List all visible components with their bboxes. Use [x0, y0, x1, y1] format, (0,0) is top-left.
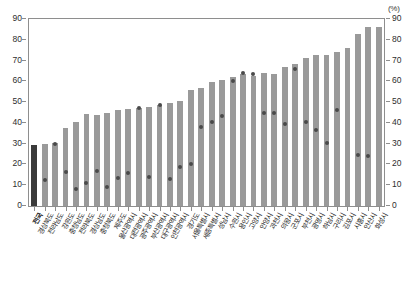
bar-slot [240, 19, 246, 206]
bar-slot [188, 19, 194, 206]
bar-slot [104, 19, 110, 206]
x-tick-mark [233, 207, 234, 211]
x-tick-mark [97, 207, 98, 211]
data-point-marker [178, 165, 182, 169]
bar [73, 122, 79, 206]
x-tick-mark [149, 207, 150, 211]
x-tick-mark [76, 207, 77, 211]
data-point-marker [314, 128, 318, 132]
bar [303, 58, 309, 206]
unit-label-right: (%) [388, 4, 400, 13]
data-point-marker [293, 67, 297, 71]
y-axis-left: 0102030405060708090 [0, 18, 26, 207]
x-tick-mark [222, 207, 223, 211]
bar [282, 67, 288, 206]
x-tick-mark [295, 207, 296, 211]
data-point-marker [304, 120, 308, 124]
x-tick-mark [191, 207, 192, 211]
bar [157, 105, 163, 206]
bar-slot [376, 19, 382, 206]
y-tick-mark-left [22, 205, 26, 206]
y-tick-mark-right [386, 18, 390, 19]
data-point-marker [84, 181, 88, 185]
x-tick-mark [170, 207, 171, 211]
x-tick-mark [264, 207, 265, 211]
bar [251, 76, 257, 206]
bar [177, 101, 183, 206]
y-tick-mark-right [386, 143, 390, 144]
x-tick-mark [285, 207, 286, 211]
x-tick-mark [180, 207, 181, 211]
bar-slot [115, 19, 121, 206]
bar-slot [324, 19, 330, 206]
data-point-marker [126, 171, 130, 175]
bar-slot [157, 19, 163, 206]
y-tick-mark-left [22, 122, 26, 123]
y-tick-mark-right [386, 184, 390, 185]
bar-slot [125, 19, 131, 206]
bar-slot [345, 19, 351, 206]
y-tick-label-right: 40 [392, 118, 401, 126]
bar-slot [230, 19, 236, 206]
y-tick-label-left: 40 [13, 118, 22, 126]
bar [355, 34, 361, 206]
data-point-marker [43, 178, 47, 182]
y-tick-label-right: 60 [392, 76, 401, 84]
bars-layer [29, 19, 384, 206]
y-axis-right: 0102030405060708090 [386, 18, 412, 207]
x-tick-mark [347, 207, 348, 211]
bar-slot [313, 19, 319, 206]
y-tick-label-right: 0 [392, 201, 397, 209]
bar-slot [292, 19, 298, 206]
bar [104, 113, 110, 206]
bar [52, 143, 58, 206]
x-tick-mark [253, 207, 254, 211]
x-tick-mark [55, 207, 56, 211]
y-tick-mark-left [22, 18, 26, 19]
data-point-marker [251, 72, 255, 76]
data-point-marker [64, 170, 68, 174]
bar-chart: (%) 0102030405060708090 0102030405060708… [0, 0, 418, 293]
y-tick-label-left: 0 [17, 201, 22, 209]
data-point-marker [231, 79, 235, 83]
y-tick-label-left: 90 [13, 14, 22, 22]
x-tick-mark [243, 207, 244, 211]
bar-slot [355, 19, 361, 206]
x-tick-mark [45, 207, 46, 211]
bar [324, 55, 330, 206]
data-point-marker [241, 71, 245, 75]
bar-slot [42, 19, 48, 206]
x-tick-mark [368, 207, 369, 211]
y-tick-label-left: 20 [13, 159, 22, 167]
x-axis-labels: 전국경상북도전라남도강원도충청남도전라북도경상남도충청북도제주도울산광역시대전광… [29, 212, 384, 293]
y-tick-mark-right [386, 101, 390, 102]
bar [271, 74, 277, 206]
bar [345, 48, 351, 206]
data-point-marker [366, 154, 370, 158]
y-tick-mark-left [22, 163, 26, 164]
y-tick-label-right: 70 [392, 56, 401, 64]
x-tick-mark [118, 207, 119, 211]
bar-slot [63, 19, 69, 206]
bar [240, 74, 246, 206]
bar-slot [271, 19, 277, 206]
bar [94, 115, 100, 206]
data-point-marker [272, 111, 276, 115]
y-tick-mark-right [386, 122, 390, 123]
bar-slot [209, 19, 215, 206]
data-point-marker [283, 122, 287, 126]
x-tick-mark [139, 207, 140, 211]
data-point-marker [53, 142, 57, 146]
bar-slot [177, 19, 183, 206]
y-tick-label-left: 30 [13, 139, 22, 147]
x-tick-mark [34, 207, 35, 211]
bar [376, 27, 382, 206]
bar-slot [303, 19, 309, 206]
x-tick-mark [107, 207, 108, 211]
data-point-marker [199, 125, 203, 129]
y-tick-mark-left [22, 184, 26, 185]
x-tick-mark [66, 207, 67, 211]
data-point-marker [74, 187, 78, 191]
y-tick-label-left: 80 [13, 35, 22, 43]
bar [136, 108, 142, 206]
